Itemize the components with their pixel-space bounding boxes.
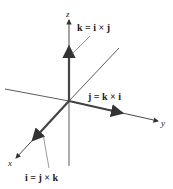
j-vector-label: j = k × i	[87, 91, 121, 102]
k-leader-line	[72, 36, 90, 54]
j-vector	[69, 101, 122, 113]
y-axis-label: y	[160, 118, 165, 128]
i-vector	[33, 101, 69, 140]
basis-vector-diagram: z y x k = i × j j = k × i i = j × k	[0, 0, 173, 189]
z-axis-label: z	[65, 9, 70, 19]
i-vector-label: i = j × k	[25, 172, 59, 183]
x-axis-label: x	[7, 158, 12, 168]
k-vector-label: k = i × j	[77, 22, 110, 33]
i-leader-line	[43, 134, 49, 168]
plane-line-left	[5, 89, 69, 101]
